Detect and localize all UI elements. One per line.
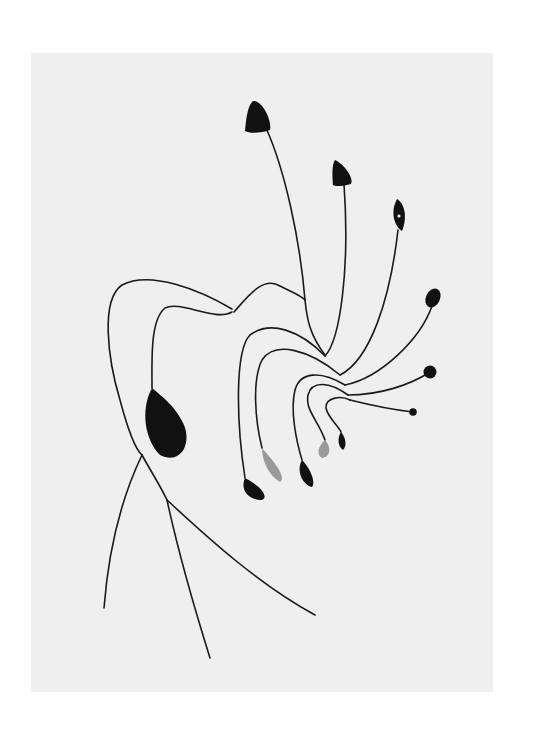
gray-shapes <box>262 440 329 482</box>
oval-shape <box>422 286 443 310</box>
second-paddle-shape <box>332 160 351 186</box>
small-dark-paddle-shape <box>339 432 346 450</box>
small-dot-shape <box>409 408 417 416</box>
gray-small-paddle-shape <box>318 440 329 458</box>
black-shapes <box>145 101 443 500</box>
mobile-sculpture <box>0 0 552 730</box>
large-teardrop-shape <box>145 388 186 458</box>
lower-teardrop-shape <box>244 478 265 500</box>
top-paddle-shape <box>245 101 270 133</box>
lower-dark-paddle-shape <box>300 460 314 487</box>
leaf-hole <box>397 214 400 217</box>
gray-paddle-shape <box>262 448 282 482</box>
round-disc-shape <box>424 366 437 379</box>
